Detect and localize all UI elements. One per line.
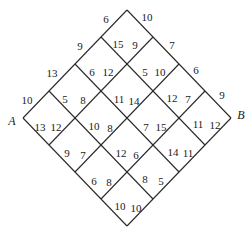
edge-weight-label: 6 [133, 150, 139, 161]
edge-weight-label: 10 [89, 121, 100, 132]
edge-weight-label: 10 [142, 12, 153, 23]
edge-weight-label: 8 [80, 95, 86, 106]
edge-weight-label: 14 [129, 96, 140, 107]
edge-weight-label: 10 [22, 95, 33, 106]
edge-weight-label: 7 [169, 40, 175, 51]
edge-weight-label: 12 [103, 67, 114, 78]
edge-weight-label: 8 [106, 177, 112, 188]
edge-weight-label: 10 [115, 201, 126, 212]
edge-weight-label: 5 [62, 94, 68, 105]
edge-weight-label: 13 [47, 68, 58, 79]
edge-weight-label: 13 [35, 122, 46, 133]
edge-weight-label: 5 [158, 176, 164, 187]
edge-weight-label: 12 [116, 148, 127, 159]
vertex-a-label: A [8, 115, 15, 127]
edge-weight-label: 12 [51, 122, 62, 133]
edge-weight-label: 6 [91, 176, 97, 187]
edge-weight-label: 12 [167, 93, 178, 104]
edge-weight-label: 15 [113, 39, 124, 50]
edge-weight-label: 6 [103, 14, 109, 25]
edge-weight-label: 6 [89, 67, 95, 78]
edge-weight-label: 8 [142, 174, 148, 185]
edge-weight-label: 11 [183, 148, 194, 159]
edge-weight-label: 8 [107, 123, 113, 134]
edge-weight-label: 12 [210, 120, 221, 131]
edge-weight-label: 9 [64, 148, 70, 159]
edge-weight-label: 15 [156, 122, 167, 133]
edge-weight-label: 10 [131, 203, 142, 214]
edge-weight-label: 11 [114, 94, 125, 105]
vertex-b-label: B [237, 109, 244, 121]
edge-weight-label: 11 [193, 119, 204, 130]
edge-weight-label: 14 [168, 147, 179, 158]
edge-weight-label: 7 [143, 122, 149, 133]
edge-weight-label: 9 [132, 40, 138, 51]
edge-weight-label: 9 [77, 41, 83, 52]
edge-weight-label: 5 [142, 67, 148, 78]
edge-weight-label: 6 [193, 65, 199, 76]
edge-weight-label: 10 [155, 67, 166, 78]
edge-weight-label: 7 [80, 150, 86, 161]
edge-weight-label: 7 [185, 94, 191, 105]
grid-diagram: 6109159713612510610581114127913121087151… [0, 0, 252, 239]
edge-weight-label: 9 [219, 90, 225, 101]
